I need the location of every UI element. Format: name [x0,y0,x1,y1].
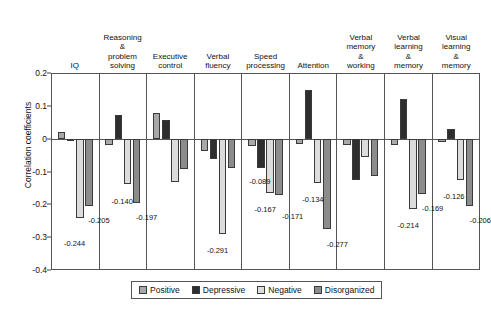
bar-group [433,74,480,269]
category-label-line: IQ [71,61,79,71]
category-label-6: Verbalmemory&working [337,2,385,73]
bar-negative [171,139,178,182]
bar-value-label: -0.206 [470,216,491,225]
bar-value-label: -0.140 [112,197,133,206]
bar-value-label: -0.197 [136,213,157,222]
category-label-line: Verbal [350,33,373,43]
bar-group [195,74,243,269]
legend-item-disorganized[interactable]: Disorganized [314,285,375,295]
bar-value-label: -0.167 [255,205,276,214]
y-axis-tick-label: 0.1 [0,101,47,111]
y-axis-tick-label: -0.3 [0,232,47,242]
category-label-line: & [120,42,125,52]
y-axis-tick-label: 0.2 [0,68,47,78]
bar-disorganized [180,139,187,169]
category-label-5: Attention [289,2,337,73]
category-label-line: Visual [445,33,467,43]
bar-value-label: -0.291 [207,246,228,255]
bar-slots [385,74,432,269]
legend-label: Depressive [203,285,246,295]
bar-slot [218,74,227,269]
bar-group [385,74,433,269]
bar-value-label: -0.089 [249,177,270,186]
category-label-line: Attention [297,61,329,71]
bar-slot [408,74,417,269]
category-label-line: problem [108,52,137,62]
bar-value-label: -0.171 [282,212,303,221]
bar-negative [457,139,464,180]
bar-value-label: -0.134 [302,195,323,204]
category-label-1: Reasoning&problemsolving [99,2,147,73]
bar-slot [84,74,93,269]
bar-value-label: -0.214 [398,221,419,230]
plot-area: -0.089-0.244-0.140-0.291-0.167-0.134-0.2… [51,73,480,270]
bar-slot [170,74,179,269]
bar-slot [105,74,114,269]
category-label-line: Executive [153,52,188,62]
bar-value-label: -0.244 [64,239,85,248]
bar-positive [201,139,208,151]
category-label-line: fluency [205,61,230,71]
category-label-line: memory [442,61,471,71]
bar-group [147,74,195,269]
category-label-line: learning [442,42,470,52]
bar-slot [370,74,379,269]
legend-swatch-icon [192,286,200,294]
bar-slot [465,74,474,269]
category-label-3: Verbalfluency [194,2,242,73]
category-label-4: Speedprocessing [242,2,290,73]
bar-slot [180,74,189,269]
category-label-8: Visuallearning&memory [432,2,480,73]
bar-depressive [305,90,312,139]
legend-item-negative[interactable]: Negative [257,285,302,295]
bar-slots [100,74,147,269]
legend-item-depressive[interactable]: Depressive [192,285,246,295]
y-axis-tick-label: -0.2 [0,199,47,209]
bar-positive [343,139,350,146]
bar-group [242,74,290,269]
bar-slot [256,74,265,269]
bar-slot [161,74,170,269]
bar-slot [209,74,218,269]
bar-slot [352,74,361,269]
category-label-line: learning [394,42,422,52]
bar-negative [219,139,226,234]
bar-slot [438,74,447,269]
y-axis-tick-label: 0 [0,134,47,144]
legend-label: Positive [150,285,180,295]
bar-disorganized [228,139,235,168]
chart-legend: PositiveDepressiveNegativeDisorganized [131,281,382,299]
bar-negative [76,139,83,218]
bar-slot [361,74,370,269]
category-header-row: IQReasoning&problemsolvingExecutivecontr… [51,2,480,73]
bar-slot [304,74,313,269]
bar-slot [399,74,408,269]
legend-label: Disorganized [325,285,375,295]
category-label-line: Reasoning [103,33,141,43]
bar-slot [390,74,399,269]
bar-depressive [115,115,122,139]
bar-slots [242,74,289,269]
bar-disorganized [466,139,473,206]
legend-item-positive[interactable]: Positive [139,285,180,295]
bar-disorganized [275,139,282,195]
bar-positive [391,139,398,145]
legend-swatch-icon [139,286,147,294]
bar-slot [266,74,275,269]
legend-swatch-icon [257,286,265,294]
bar-positive [438,139,445,142]
category-label-line: & [406,52,411,62]
bar-depressive [447,129,454,139]
bar-group [100,74,148,269]
category-label-line: & [454,52,459,62]
legend-swatch-icon [314,286,322,294]
category-label-line: Verbal [397,33,420,43]
bar-value-label: -0.205 [88,216,109,225]
bar-depressive [257,139,264,168]
legend-label: Negative [268,285,302,295]
bar-value-label: -0.277 [327,240,348,249]
category-label-line: working [347,61,375,71]
bar-slots [433,74,480,269]
bar-positive [58,132,65,139]
